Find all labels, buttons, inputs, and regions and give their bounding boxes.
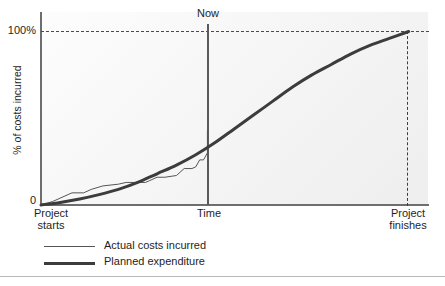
now-marker-label: Now bbox=[186, 7, 230, 19]
legend-label-planned: Planned expenditure bbox=[104, 255, 205, 267]
y-tick-label-100: 100% bbox=[2, 24, 36, 36]
project-finishes-label: Project finishes bbox=[377, 207, 439, 231]
project-finishes-line1: Project bbox=[391, 207, 425, 219]
legend-item-actual: Actual costs incurred bbox=[44, 239, 304, 255]
y-axis-line bbox=[40, 12, 42, 206]
x-axis-title: Time bbox=[183, 207, 235, 219]
legend-line-icon-planned bbox=[44, 262, 95, 265]
chart-legend: Actual costs incurred Planned expenditur… bbox=[44, 239, 304, 271]
y-tick-label-0: 0 bbox=[10, 194, 36, 206]
completion-gridline bbox=[41, 31, 429, 32]
project-starts-label: Project starts bbox=[20, 207, 82, 231]
chart-figure: Now 100% 0 % of costs incurred Time Proj… bbox=[0, 0, 445, 286]
now-marker-line bbox=[207, 24, 209, 205]
legend-label-actual: Actual costs incurred bbox=[104, 239, 206, 251]
footer-divider bbox=[0, 276, 445, 277]
plot-area bbox=[41, 12, 428, 205]
x-axis-line bbox=[41, 204, 429, 206]
project-starts-line2: starts bbox=[20, 219, 82, 231]
project-finishes-line2: finishes bbox=[377, 219, 439, 231]
project-finish-dashed-line bbox=[407, 31, 408, 206]
y-axis-title: % of costs incurred bbox=[11, 40, 23, 180]
legend-item-planned: Planned expenditure bbox=[44, 255, 304, 271]
legend-line-icon-actual bbox=[44, 246, 95, 247]
project-starts-line1: Project bbox=[34, 207, 68, 219]
